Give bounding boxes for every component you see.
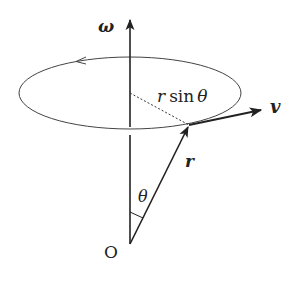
r-sin-theta-label: rsinθ bbox=[157, 86, 208, 106]
position-label: r bbox=[185, 151, 195, 171]
rotation-diagram: ω rsinθ v r θ O bbox=[0, 0, 300, 281]
origin-label: O bbox=[104, 242, 118, 262]
velocity-label: v bbox=[270, 96, 281, 117]
theta-label: θ bbox=[138, 187, 148, 206]
position-vector bbox=[130, 127, 188, 244]
omega-label: ω bbox=[98, 16, 114, 36]
angle-marker bbox=[130, 212, 143, 218]
